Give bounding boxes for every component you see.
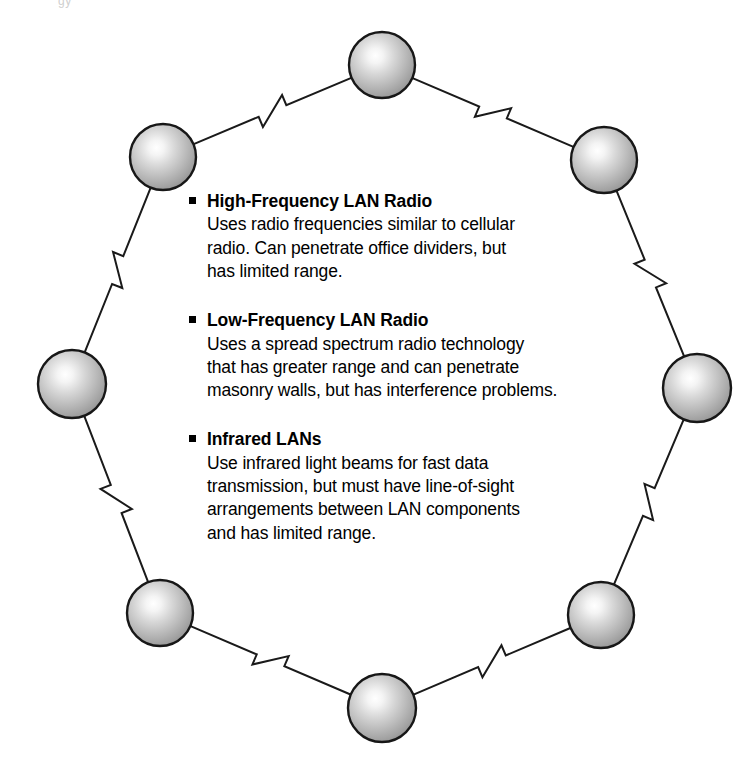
link-upper-right-to-right [616,190,684,358]
topic-heading-label: High-Frequency LAN Radio [207,191,432,211]
topic-block: Low-Frequency LAN RadioUses a spread spe… [188,309,588,402]
node-bottom[interactable] [348,674,416,742]
topic-heading: High-Frequency LAN Radio [188,190,588,212]
sphere-icon[interactable] [127,580,193,646]
topic-block: Infrared LANsUse infrared light beams fo… [188,428,588,544]
sphere-icon[interactable] [571,127,637,193]
diagram-stage: gy High-Frequency LAN RadioUses radio fr… [0,0,754,765]
topic-body-text: Uses radio frequencies similar to cellul… [188,213,588,283]
topic-heading: Infrared LANs [188,428,588,450]
topic-body-text: Use infrared light beams for fast data t… [188,452,588,545]
link-bottom-to-lower-left [189,626,351,695]
topic-heading-label: Low-Frequency LAN Radio [207,310,428,330]
link-right-to-lower-right [613,418,684,585]
node-left[interactable] [38,350,106,418]
sphere-icon[interactable] [348,674,416,742]
sphere-icon[interactable] [38,350,106,418]
node-top[interactable] [349,32,415,98]
bullet-square-icon [189,316,196,323]
topic-heading-label: Infrared LANs [207,429,321,449]
sphere-icon[interactable] [349,32,415,98]
sphere-icon[interactable] [130,124,196,190]
node-right[interactable] [663,354,731,422]
sphere-icon[interactable] [568,582,634,648]
topic-heading: Low-Frequency LAN Radio [188,309,588,331]
topics-panel: High-Frequency LAN RadioUses radio frequ… [188,190,588,545]
node-upper-right[interactable] [571,127,637,193]
topic-body-text: Uses a spread spectrum radio technology … [188,333,588,403]
node-lower-right[interactable] [568,582,634,648]
bullet-square-icon [189,435,196,442]
bullet-square-icon [189,197,196,204]
sphere-icon[interactable] [663,354,731,422]
node-lower-left[interactable] [127,580,193,646]
link-lower-left-to-left [84,415,149,583]
topic-block: High-Frequency LAN RadioUses radio frequ… [188,190,588,283]
link-upper-left-to-top [193,77,353,144]
link-left-to-upper-left [84,187,151,354]
node-upper-left[interactable] [130,124,196,190]
link-lower-right-to-bottom [412,628,571,696]
link-top-to-upper-right [411,78,574,148]
